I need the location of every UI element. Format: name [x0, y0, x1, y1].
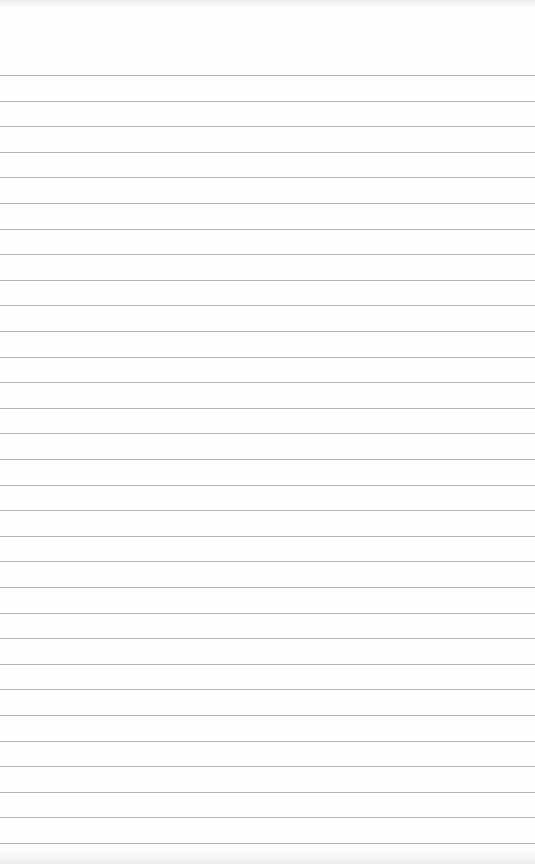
ruled-line — [0, 305, 535, 306]
ruled-line — [0, 613, 535, 614]
ruled-line — [0, 331, 535, 332]
ruled-line — [0, 408, 535, 409]
ruled-line — [0, 638, 535, 639]
ruled-line — [0, 510, 535, 511]
ruled-line — [0, 459, 535, 460]
paper-bottom-edge — [0, 850, 535, 864]
ruled-line — [0, 152, 535, 153]
paper-top-edge — [0, 0, 535, 8]
ruled-line — [0, 126, 535, 127]
ruled-line — [0, 229, 535, 230]
lined-paper — [0, 0, 535, 864]
ruled-line — [0, 101, 535, 102]
ruled-line — [0, 382, 535, 383]
ruled-line — [0, 75, 535, 76]
ruled-line — [0, 664, 535, 665]
ruled-line — [0, 561, 535, 562]
ruled-line — [0, 357, 535, 358]
ruled-line — [0, 536, 535, 537]
ruled-line — [0, 280, 535, 281]
ruled-line — [0, 715, 535, 716]
ruled-line — [0, 843, 535, 844]
ruled-line — [0, 587, 535, 588]
ruled-line — [0, 817, 535, 818]
ruled-line — [0, 689, 535, 690]
ruled-line — [0, 485, 535, 486]
ruled-line — [0, 203, 535, 204]
ruled-line — [0, 741, 535, 742]
ruled-line — [0, 433, 535, 434]
ruled-line — [0, 792, 535, 793]
ruled-line — [0, 766, 535, 767]
ruled-line — [0, 177, 535, 178]
ruled-line — [0, 254, 535, 255]
